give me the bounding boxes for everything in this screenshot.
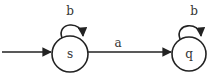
automaton-diagram: s b a q b — [0, 0, 210, 79]
transition-q-q-label: b — [190, 4, 198, 18]
state-q[interactable]: q — [172, 37, 206, 71]
transition-s-s-label: b — [66, 4, 74, 18]
state-s[interactable]: s — [52, 36, 88, 72]
transition-s-s: b — [61, 4, 83, 38]
transition-s-q: a — [88, 36, 171, 52]
transition-s-q-label: a — [114, 36, 121, 50]
state-q-label: q — [185, 47, 193, 61]
transition-q-q: b — [179, 4, 201, 39]
state-s-label: s — [67, 47, 73, 61]
